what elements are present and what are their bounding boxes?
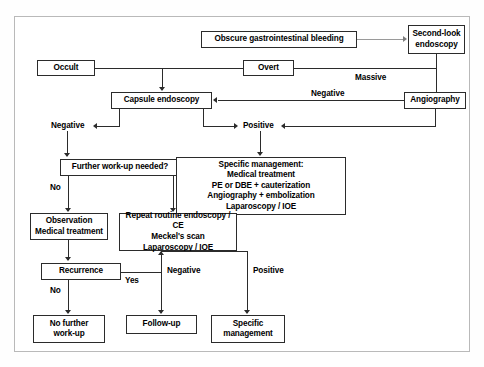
edge-label-negative-repeat: Negative bbox=[167, 266, 200, 276]
node-further-workup-label: Further work-up needed? bbox=[72, 162, 168, 172]
edge-recurrence-no bbox=[68, 280, 69, 313]
edge-angiography-to-positive bbox=[285, 126, 436, 127]
edge-label-negative-from-angiography: Negative bbox=[311, 89, 344, 99]
node-overt-label: Overt bbox=[258, 63, 279, 73]
node-no-further-workup-label: No further work-up bbox=[50, 319, 89, 339]
edge-recurrence-yes-horizontal bbox=[121, 272, 162, 273]
arrowhead-further-workup-no bbox=[65, 208, 71, 212]
node-second-look-endoscopy: Second-look endoscopy bbox=[408, 25, 465, 54]
arrowhead-recurrence-no bbox=[65, 310, 71, 314]
node-obscure-bleeding: Obscure gastrointestinal bleeding bbox=[201, 31, 357, 48]
node-no-further-workup: No further work-up bbox=[33, 315, 105, 343]
edge-secondlook-to-angiography bbox=[436, 54, 437, 68]
arrowhead-capsule-to-positive bbox=[234, 123, 238, 129]
node-angiography-label: Angiography bbox=[410, 95, 459, 105]
node-angiography: Angiography bbox=[404, 92, 466, 109]
edge-label-no-recurrence: No bbox=[50, 286, 61, 296]
node-specific-management-label: Specific management bbox=[223, 319, 273, 339]
edge-label-positive-repeat: Positive bbox=[253, 266, 284, 276]
node-specific-management-detail: Specific management: Medical treatment P… bbox=[176, 157, 346, 215]
edge-label-negative-left: Negative bbox=[51, 121, 84, 131]
edge-repeat-negative bbox=[161, 251, 162, 313]
node-repeat-routine-endoscopy: Repeat routine endoscopy / CE Meckel's s… bbox=[119, 213, 237, 251]
arrowhead-capsule-to-negative bbox=[93, 123, 97, 129]
edge-repeat-positive bbox=[247, 251, 248, 313]
edge-angiography-to-capsule bbox=[218, 100, 404, 101]
node-occult-label: Occult bbox=[54, 63, 79, 73]
edge-capsule-to-positive bbox=[203, 126, 235, 127]
node-specific-management: Specific management bbox=[211, 315, 285, 343]
arrowhead-repeat-positive bbox=[244, 310, 250, 314]
arrowhead-angiography-to-positive bbox=[281, 123, 285, 129]
arrowhead-junction-to-capsule bbox=[159, 87, 165, 91]
arrowhead-negative-to-further-workup bbox=[64, 153, 70, 157]
edge-label-massive: Massive bbox=[355, 73, 386, 83]
edge-obscure-to-secondlook bbox=[357, 39, 404, 40]
arrowhead-positive-to-specific-mgmt bbox=[257, 152, 263, 156]
node-follow-up: Follow-up bbox=[126, 315, 197, 334]
edge-label-no-workup: No bbox=[50, 183, 61, 193]
node-capsule-endoscopy-label: Capsule endoscopy bbox=[124, 95, 200, 105]
edge-label-positive: Positive bbox=[243, 121, 274, 131]
edge-further-workup-no bbox=[68, 176, 69, 211]
edge-capsule-to-negative bbox=[96, 126, 120, 127]
figure-canvas: Obscure gastrointestinal bleeding Second… bbox=[0, 0, 484, 367]
edge-occult-to-junction bbox=[95, 68, 163, 69]
arrowhead-repeat-negative bbox=[158, 310, 164, 314]
edge-capsule-down-right bbox=[203, 109, 204, 127]
edge-angiography-down bbox=[435, 109, 436, 127]
node-obscure-bleeding-label: Obscure gastrointestinal bleeding bbox=[214, 34, 343, 44]
node-follow-up-label: Follow-up bbox=[143, 319, 181, 329]
arrowhead-observation-to-recurrence bbox=[65, 257, 71, 261]
arrowhead-angiography-to-capsule bbox=[213, 97, 217, 103]
node-observation: Observation Medical treatment bbox=[30, 213, 108, 240]
edge-repeat-bottom-connector bbox=[161, 251, 248, 252]
edge-label-yes-recurrence: Yes bbox=[125, 276, 139, 286]
node-capsule-endoscopy: Capsule endoscopy bbox=[111, 92, 212, 109]
node-observation-label: Observation Medical treatment bbox=[35, 216, 103, 236]
node-repeat-routine-endoscopy-label: Repeat routine endoscopy / CE Meckel's s… bbox=[123, 211, 233, 253]
figure-frame: Obscure gastrointestinal bleeding Second… bbox=[14, 16, 470, 352]
node-occult: Occult bbox=[37, 60, 95, 76]
node-recurrence: Recurrence bbox=[41, 263, 121, 280]
node-overt: Overt bbox=[243, 60, 294, 76]
node-recurrence-label: Recurrence bbox=[59, 266, 103, 276]
arrowhead-obscure-to-secondlook bbox=[403, 36, 407, 42]
edge-overt-to-junction bbox=[163, 68, 243, 69]
edge-capsule-down-left bbox=[119, 109, 120, 127]
edge-overt-to-massive bbox=[294, 68, 437, 69]
node-specific-management-detail-label: Specific management: Medical treatment P… bbox=[207, 160, 314, 213]
node-second-look-endoscopy-label: Second-look endoscopy bbox=[412, 29, 460, 49]
edge-further-workup-yes bbox=[173, 176, 174, 211]
node-further-workup: Further work-up needed? bbox=[60, 159, 180, 176]
